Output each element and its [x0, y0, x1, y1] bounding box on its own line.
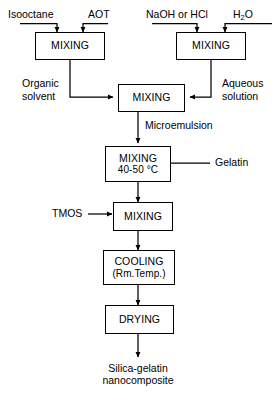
water-formula-suffix: O — [245, 8, 253, 20]
input-label-naoh-or-hcl: NaOH or HCl — [146, 8, 208, 20]
process-box-mixing-center[interactable]: MIXING — [118, 84, 185, 112]
process-box-cooling[interactable]: COOLING (Rm.Temp.) — [103, 250, 175, 285]
process-box-cooling-label: COOLING — [114, 256, 163, 268]
input-label-water: H2O — [233, 8, 253, 23]
connector-naoh-hcl — [152, 24, 197, 33]
output-label-product-line1: Silica-gelatin — [79, 362, 197, 374]
stream-label-organic-solvent: Organic solvent — [22, 77, 72, 103]
process-box-mixing-center-label: MIXING — [133, 92, 171, 104]
connector-organic-solvent — [70, 60, 113, 97]
process-box-mixing-tmos[interactable]: MIXING — [113, 202, 173, 231]
connector-aot — [83, 24, 108, 33]
output-label-product-line2: nanocomposite — [79, 374, 197, 386]
process-box-cooling-condition: (Rm.Temp.) — [112, 268, 165, 279]
flow-connector-layer — [0, 0, 279, 401]
flowchart-canvas: Isooctane AOT NaOH or HCl H2O MIXING MIX… — [0, 0, 279, 401]
input-label-tmos: TMOS — [52, 207, 82, 219]
process-box-mixing-aqueous[interactable]: MIXING — [176, 32, 246, 60]
input-label-aot: AOT — [88, 8, 110, 20]
stream-label-aqueous-solution: Aqueous solution — [222, 77, 276, 103]
process-box-mixing-organic[interactable]: MIXING — [35, 32, 105, 60]
process-box-drying[interactable]: DRYING — [105, 305, 174, 334]
process-box-mixing-aqueous-label: MIXING — [192, 40, 230, 52]
water-formula-prefix: H — [233, 8, 241, 20]
process-box-mixing-heated[interactable]: MIXING 40-50 °C — [105, 146, 171, 182]
input-label-isooctane: Isooctane — [8, 8, 54, 20]
process-box-mixing-heated-label: MIXING — [119, 153, 157, 165]
process-box-mixing-tmos-label: MIXING — [124, 211, 162, 223]
process-box-mixing-heated-temperature: 40-50 °C — [118, 164, 158, 175]
input-label-gelatin: Gelatin — [215, 156, 248, 168]
process-box-drying-label: DRYING — [119, 314, 160, 326]
output-label-product: Silica-gelatin nanocomposite — [79, 362, 197, 387]
connector-isooctane — [20, 24, 57, 33]
stream-label-microemulsion: Microemulsion — [145, 119, 213, 131]
connector-water — [225, 24, 272, 33]
connector-aqueous-solution — [190, 60, 211, 97]
process-box-mixing-organic-label: MIXING — [51, 40, 89, 52]
